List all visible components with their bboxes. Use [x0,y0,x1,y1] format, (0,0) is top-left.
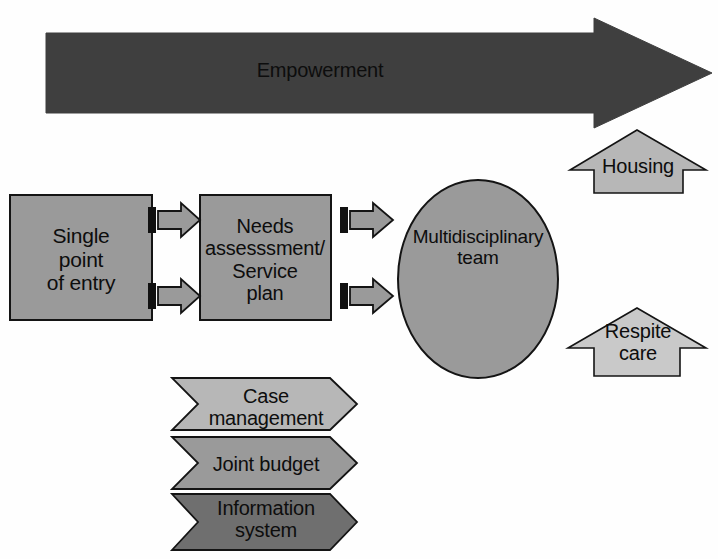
housing-arrow-shape [570,130,706,193]
respite-care-arrow[interactable] [568,308,706,376]
information-system-chevron[interactable] [172,494,357,550]
empowerment-arrow-shape [46,18,712,128]
case-management-chevron-shape [172,378,357,430]
connector-needs-to-team-top-head [350,203,393,237]
connector-entry-to-needs-bottom-head [158,279,200,313]
connector-entry-to-needs-top[interactable] [148,203,200,237]
connector-needs-to-team-bottom-head [350,279,393,313]
single-point-of-entry-shape [10,195,152,320]
connector-needs-to-team-bottom[interactable] [340,279,393,313]
single-point-of-entry[interactable] [10,195,152,320]
connector-entry-to-needs-top-head [158,203,200,237]
needs-assessment-shape [200,195,331,320]
multidisciplinary-team-shape [398,180,558,378]
connector-needs-to-team-bottom-tail [340,283,348,309]
empowerment-arrow[interactable] [46,18,712,128]
case-management-chevron[interactable] [172,378,357,430]
joint-budget-chevron[interactable] [172,437,357,489]
joint-budget-chevron-shape [172,437,357,489]
multidisciplinary-team[interactable] [398,180,558,378]
connector-entry-to-needs-top-tail [148,207,156,233]
connector-needs-to-team-top[interactable] [340,203,393,237]
housing-arrow[interactable] [570,130,706,193]
connector-entry-to-needs-bottom[interactable] [148,279,200,313]
information-system-chevron-shape [172,494,357,550]
diagram-graphics [0,0,718,559]
respite-care-arrow-shape [568,308,706,376]
diagram-canvas: Empowerment Single point of entry Needs … [0,0,718,559]
needs-assessment[interactable] [200,195,331,320]
connector-entry-to-needs-bottom-tail [148,283,156,309]
connector-needs-to-team-top-tail [340,207,348,233]
